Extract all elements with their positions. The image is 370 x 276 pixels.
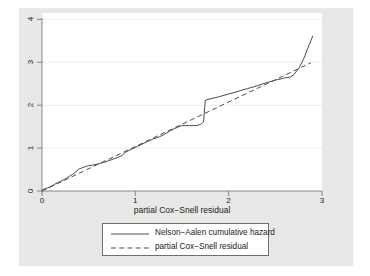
plot-region-background bbox=[42, 13, 322, 191]
y-tick-label-4: 4 bbox=[27, 14, 35, 24]
x-axis-title: partial Cox−Snell residual bbox=[42, 205, 322, 215]
y-tick-label-0: 0 bbox=[27, 186, 35, 196]
legend-label-nelson-aalen: Nelson−Aalen cumulative hazard bbox=[155, 228, 275, 237]
y-tick-label-3: 3 bbox=[27, 57, 35, 67]
y-axis-ticks bbox=[37, 19, 42, 191]
legend-key-dashed-icon bbox=[111, 247, 149, 249]
figure-canvas: 4 3 2 1 0 0 1 2 3 partial Cox−Snell resi… bbox=[0, 0, 370, 276]
chart-legend: Nelson−Aalen cumulative hazard partial C… bbox=[102, 223, 269, 256]
legend-entry-nelson-aalen: Nelson−Aalen cumulative hazard bbox=[103, 227, 268, 241]
y-tick-label-2: 2 bbox=[27, 100, 35, 110]
x-tick-label-2: 2 bbox=[223, 197, 235, 205]
y-tick-label-1: 1 bbox=[27, 143, 35, 153]
x-tick-label-0: 0 bbox=[36, 197, 48, 205]
legend-label-partial-cox-snell: partial Cox−Snell residual bbox=[155, 242, 248, 251]
x-tick-label-1: 1 bbox=[129, 197, 141, 205]
legend-key-solid-icon bbox=[111, 233, 149, 235]
x-axis-ticks bbox=[42, 191, 322, 196]
legend-entry-partial-cox-snell: partial Cox−Snell residual bbox=[103, 241, 268, 255]
x-tick-label-3: 3 bbox=[316, 197, 328, 205]
